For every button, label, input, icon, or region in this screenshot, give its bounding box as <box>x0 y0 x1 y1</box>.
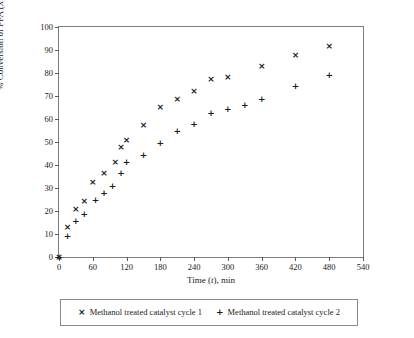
data-point-series-1 <box>111 158 120 167</box>
y-axis-tick-label: 50 <box>45 138 54 147</box>
y-axis-tick-label: 60 <box>45 115 54 124</box>
y-axis-tick-label: 70 <box>45 92 54 101</box>
x-axis-tick <box>228 257 229 261</box>
data-point-series-2 <box>139 151 148 160</box>
plus-marker-icon: + <box>216 308 224 317</box>
x-axis-tick-label: 120 <box>120 263 133 272</box>
data-point-series-2 <box>71 217 80 226</box>
y-axis-tick-label: 20 <box>45 207 54 216</box>
legend-entry-2: +Methanol treated catalyst cycle 2 <box>216 308 340 317</box>
x-axis-title: Time (t), min <box>58 276 364 285</box>
x-axis-tick <box>262 257 263 261</box>
data-point-series-1 <box>88 178 97 187</box>
x-axis-tick <box>59 257 60 261</box>
y-axis-tick <box>55 234 59 235</box>
data-point-series-1 <box>122 136 131 145</box>
data-point-series-2 <box>190 120 199 129</box>
data-point-series-1 <box>207 75 216 84</box>
y-axis-tick-label: 80 <box>45 69 54 78</box>
y-axis-tick <box>55 73 59 74</box>
y-axis-tick <box>55 27 59 28</box>
data-point-series-1 <box>71 205 80 214</box>
x-axis-tick <box>127 257 128 261</box>
x-axis-title-suffix: ), min <box>213 275 235 285</box>
data-point-series-1 <box>291 51 300 60</box>
x-axis-tick <box>329 257 330 261</box>
data-point-series-2 <box>156 139 165 148</box>
data-point-series-1 <box>80 197 89 206</box>
x-axis-tick <box>160 257 161 261</box>
legend-label: Methanol treated catalyst cycle 1 <box>90 308 202 317</box>
x-axis-tick <box>93 257 94 261</box>
x-axis-tick-label: 480 <box>323 263 336 272</box>
y-axis-title-prefix: % Conversion of FFA ( <box>0 6 5 90</box>
y-axis-tick-label: 40 <box>45 161 54 170</box>
legend-entry-1: ×Methanol treated catalyst cycle 1 <box>78 308 202 317</box>
data-point-series-1 <box>100 169 109 178</box>
x-axis-tick-label: 540 <box>357 263 370 272</box>
data-point-series-1 <box>156 103 165 112</box>
data-point-series-2 <box>80 210 89 219</box>
x-axis-tick-label: 420 <box>289 263 302 272</box>
chart-legend: ×Methanol treated catalyst cycle 1+Metha… <box>60 299 358 326</box>
data-point-series-1 <box>190 87 199 96</box>
data-point-series-2 <box>116 169 125 178</box>
y-axis-tick-label: 30 <box>45 184 54 193</box>
data-point-series-1 <box>325 42 334 51</box>
data-point-series-2 <box>291 82 300 91</box>
y-axis-title-italic: X <box>0 1 5 7</box>
x-axis-tick <box>363 257 364 261</box>
x-axis-tick-label: 300 <box>222 263 235 272</box>
y-axis-tick <box>55 211 59 212</box>
data-point-series-2 <box>240 101 249 110</box>
data-point-series-2 <box>257 95 266 104</box>
data-point-series-2 <box>63 232 72 241</box>
x-axis-tick-label: 60 <box>89 263 98 272</box>
data-point-series-1 <box>63 223 72 232</box>
y-axis-tick <box>55 188 59 189</box>
data-point-series-2 <box>100 189 109 198</box>
x-axis-tick-label: 180 <box>154 263 167 272</box>
y-axis-tick <box>55 50 59 51</box>
data-point-series-2 <box>325 71 334 80</box>
x-axis-tick-label: 360 <box>255 263 268 272</box>
x-axis-tick <box>295 257 296 261</box>
y-axis-tick <box>55 142 59 143</box>
data-point-series-2 <box>207 109 216 118</box>
data-point-series-2 <box>108 182 117 191</box>
data-point-series-2 <box>122 158 131 167</box>
x-axis-tick <box>194 257 195 261</box>
plot-area: 0102030405060708090100060120180240300360… <box>58 26 364 258</box>
y-axis-tick-label: 90 <box>45 46 54 55</box>
y-axis-tick <box>55 96 59 97</box>
y-axis-tick <box>55 165 59 166</box>
y-axis-tick-label: 100 <box>40 23 53 32</box>
data-point-series-1 <box>223 73 232 82</box>
legend-label: Methanol treated catalyst cycle 2 <box>228 308 340 317</box>
data-point-series-1 <box>173 95 182 104</box>
x-axis-tick-label: 0 <box>57 263 61 272</box>
y-axis-title-subscript: F <box>0 0 6 1</box>
y-axis-tick-label: 0 <box>49 253 53 262</box>
y-axis-tick <box>55 119 59 120</box>
data-point-series-2 <box>173 127 182 136</box>
y-axis-tick-label: 10 <box>45 230 54 239</box>
data-point-series-2 <box>223 105 232 114</box>
cross-marker-icon: × <box>78 308 86 317</box>
scatter-chart-figure: % Conversion of FFA (XF) 010203040506070… <box>0 0 414 338</box>
data-point-series-2 <box>91 196 100 205</box>
data-point-series-1 <box>116 143 125 152</box>
data-point-series-1 <box>257 62 266 71</box>
data-point-series-1 <box>139 121 148 130</box>
y-axis-title: % Conversion of FFA (XF) <box>0 0 5 142</box>
x-axis-title-prefix: Time ( <box>187 275 211 285</box>
x-axis-tick-label: 240 <box>188 263 201 272</box>
